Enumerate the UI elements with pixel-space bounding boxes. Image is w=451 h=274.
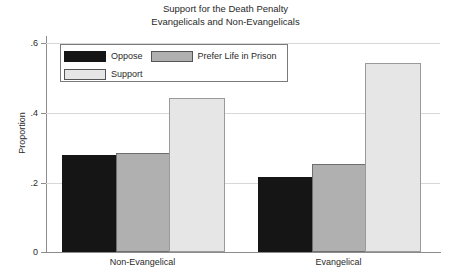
death-penalty-support-bar-chart: Support for the Death Penalty Evangelica…: [0, 0, 451, 274]
chart-title: Support for the Death Penalty Evangelica…: [0, 2, 451, 28]
legend-swatch-support-icon: [64, 69, 106, 80]
chart-title-line-1: Support for the Death Penalty: [0, 2, 451, 15]
legend-item-prefer-life-in-prison: Prefer Life in Prison: [151, 51, 277, 62]
chart-legend: Oppose Prefer Life in Prison Support: [60, 44, 288, 82]
legend-item-support: Support: [64, 69, 143, 80]
legend-row-1: Oppose Prefer Life in Prison: [64, 47, 285, 65]
bar-evangelical-prefer-life-in-prison: [312, 164, 367, 252]
x-axis-line: [46, 252, 441, 253]
bar-non-evangelical-prefer-life-in-prison: [116, 153, 171, 252]
y-tick-label-0.4: .4: [8, 108, 38, 118]
bar-non-evangelical-support: [169, 98, 225, 252]
legend-swatch-prefer-life-in-prison-icon: [151, 51, 193, 62]
x-axis-label-evangelical: Evangelical: [258, 256, 419, 268]
legend-swatch-oppose-icon: [64, 51, 106, 62]
y-tick-label-0.6: .6: [8, 38, 38, 48]
legend-label-oppose: Oppose: [111, 51, 143, 62]
bar-evangelical-support: [365, 63, 421, 252]
bar-non-evangelical-oppose: [62, 155, 118, 252]
legend-item-oppose: Oppose: [64, 51, 143, 62]
legend-row-2: Support: [64, 65, 151, 83]
x-axis-label-non-evangelical: Non-Evangelical: [62, 256, 223, 268]
y-tick-label-0.2: .2: [8, 178, 38, 188]
legend-label-support: Support: [111, 69, 143, 80]
bar-evangelical-oppose: [258, 177, 314, 252]
chart-title-line-2: Evangelicals and Non-Evangelicals: [0, 15, 451, 28]
legend-label-prefer-life-in-prison: Prefer Life in Prison: [198, 51, 277, 62]
y-tick-label-0: 0: [8, 247, 38, 257]
y-axis-title: Proportion: [17, 73, 27, 193]
